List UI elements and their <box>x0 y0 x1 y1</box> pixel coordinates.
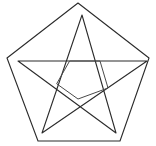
figure-background <box>0 0 156 146</box>
pentagon-pentagram-figure: Pentagon with inscribed five-pointed sta… <box>0 0 156 146</box>
